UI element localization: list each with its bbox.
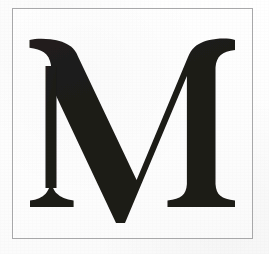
specimen-page: M Large uppercase roman M with hooked to… xyxy=(0,0,269,254)
glyph-stage xyxy=(12,8,253,239)
capital-letter-m-icon xyxy=(12,8,253,239)
